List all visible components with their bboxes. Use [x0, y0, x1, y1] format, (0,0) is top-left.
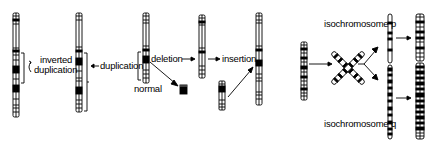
label-isochromosome-p: isochromosome p: [324, 19, 396, 29]
arrow-down-right-icon: [372, 74, 378, 80]
label-isochromosome-q: isochromosome q: [324, 119, 396, 129]
arrow-right-icon: [328, 62, 332, 66]
chromosome-after-insertion: [256, 13, 262, 105]
karyotype-diagram: inverted duplication duplication normal …: [0, 0, 440, 141]
chromosome-normal: [143, 13, 149, 83]
label-normal: normal: [134, 84, 162, 94]
chromosome-iso-p-result: [416, 14, 424, 61]
chromosome-after-deletion: [199, 15, 205, 78]
insert-fragment: [219, 81, 225, 110]
chromosome-iso-source: [301, 42, 307, 100]
chromosome-duplication: [76, 13, 82, 112]
chromosome-inverted-duplication: [13, 13, 19, 117]
label-duplication: duplication: [100, 61, 143, 71]
label-deletion: deletion: [151, 54, 183, 64]
arrow-up-right-icon: [372, 47, 378, 53]
arrow-left-icon: [91, 64, 94, 68]
deleted-fragment: [180, 85, 187, 94]
crossing-chromatids: [331, 51, 366, 86]
label-insertion: insertion: [222, 54, 256, 64]
arrow-right-icon: [191, 57, 195, 61]
bracket-inverted-duplication: [21, 53, 24, 83]
bracket-duplication: [84, 53, 87, 111]
label-duplication-inverted: duplication: [34, 65, 77, 75]
chromosome-iso-q-result: [416, 63, 424, 139]
arrow-right-icon: [216, 57, 220, 61]
arrow-right-icon: [407, 96, 411, 100]
arrow-right-icon: [407, 36, 411, 40]
